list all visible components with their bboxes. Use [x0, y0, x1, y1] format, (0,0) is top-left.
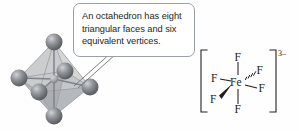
vertex-sphere-right-back — [57, 63, 74, 80]
callout-text: An octahedron has eight triangular faces… — [82, 10, 187, 48]
bracket-right — [270, 50, 276, 112]
hashed-wedge-bond — [246, 72, 256, 80]
ligand-label-f-lower-left: F — [210, 93, 216, 105]
vertex-sphere-left-back — [11, 70, 28, 87]
ligand-label-f-top: F — [235, 51, 241, 63]
octahedron-center-atom — [50, 75, 58, 83]
ligand-label-f-bottom: F — [235, 103, 241, 115]
ligand-label-f-upper-right: F — [257, 64, 263, 76]
vertex-sphere-bottom — [46, 108, 63, 125]
complex-ion-structure: 3– Fe F F F F F — [196, 42, 299, 124]
ion-charge-label: 3– — [278, 49, 287, 58]
bracket-left — [201, 50, 207, 112]
figure-canvas: An octahedron has eight triangular faces… — [0, 0, 299, 131]
vertex-sphere-right-front — [82, 79, 99, 96]
ligand-label-f-right: F — [259, 82, 265, 94]
vertex-sphere-left-front — [31, 84, 48, 101]
vertex-sphere-top — [46, 34, 63, 51]
central-atom-label: Fe — [230, 76, 242, 88]
ligand-label-f-left: F — [211, 72, 217, 84]
callout-box: An octahedron has eight triangular faces… — [73, 3, 195, 57]
